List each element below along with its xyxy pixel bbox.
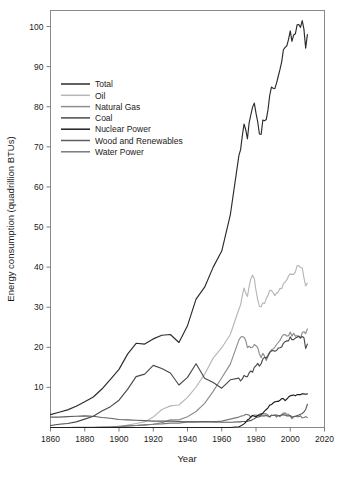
line-chart: 102030405060708090100 186018801900192019… — [0, 0, 350, 478]
y-tick-label: 40 — [34, 262, 44, 272]
x-axis-ticks: 186018801900192019401960198020002020 — [41, 428, 334, 444]
y-tick-label: 30 — [34, 302, 44, 312]
legend-label-water-power: Water Power — [95, 147, 144, 157]
x-tick-label: 1980 — [247, 434, 266, 444]
x-tick-label: 1900 — [110, 434, 129, 444]
y-tick-label: 70 — [34, 142, 44, 152]
y-tick-label: 50 — [34, 222, 44, 232]
y-tick-label: 80 — [34, 102, 44, 112]
x-tick-label: 1920 — [144, 434, 163, 444]
y-tick-label: 100 — [29, 22, 43, 32]
x-tick-label: 2000 — [281, 434, 300, 444]
legend-label-total: Total — [95, 79, 113, 89]
legend-label-nuclear-power: Nuclear Power — [95, 124, 151, 134]
y-tick-label: 60 — [34, 182, 44, 192]
chart-figure: 102030405060708090100 186018801900192019… — [0, 0, 350, 478]
legend-label-natural-gas: Natural Gas — [95, 102, 140, 112]
chart-background — [0, 0, 350, 478]
x-axis-title: Year — [177, 453, 196, 464]
x-tick-label: 2020 — [315, 434, 334, 444]
legend-label-coal: Coal — [95, 113, 113, 123]
x-tick-label: 1960 — [212, 434, 231, 444]
legend-label-wood-and-renewables: Wood and Renewables — [95, 136, 183, 146]
x-tick-label: 1860 — [41, 434, 60, 444]
y-tick-label: 20 — [34, 342, 44, 352]
legend-label-oil: Oil — [95, 91, 106, 101]
y-tick-label: 90 — [34, 62, 44, 72]
x-tick-label: 1940 — [178, 434, 197, 444]
y-tick-label: 10 — [34, 382, 44, 392]
y-axis-title: Energy consumption (quadrillion BTUs) — [5, 136, 16, 301]
x-tick-label: 1880 — [75, 434, 94, 444]
